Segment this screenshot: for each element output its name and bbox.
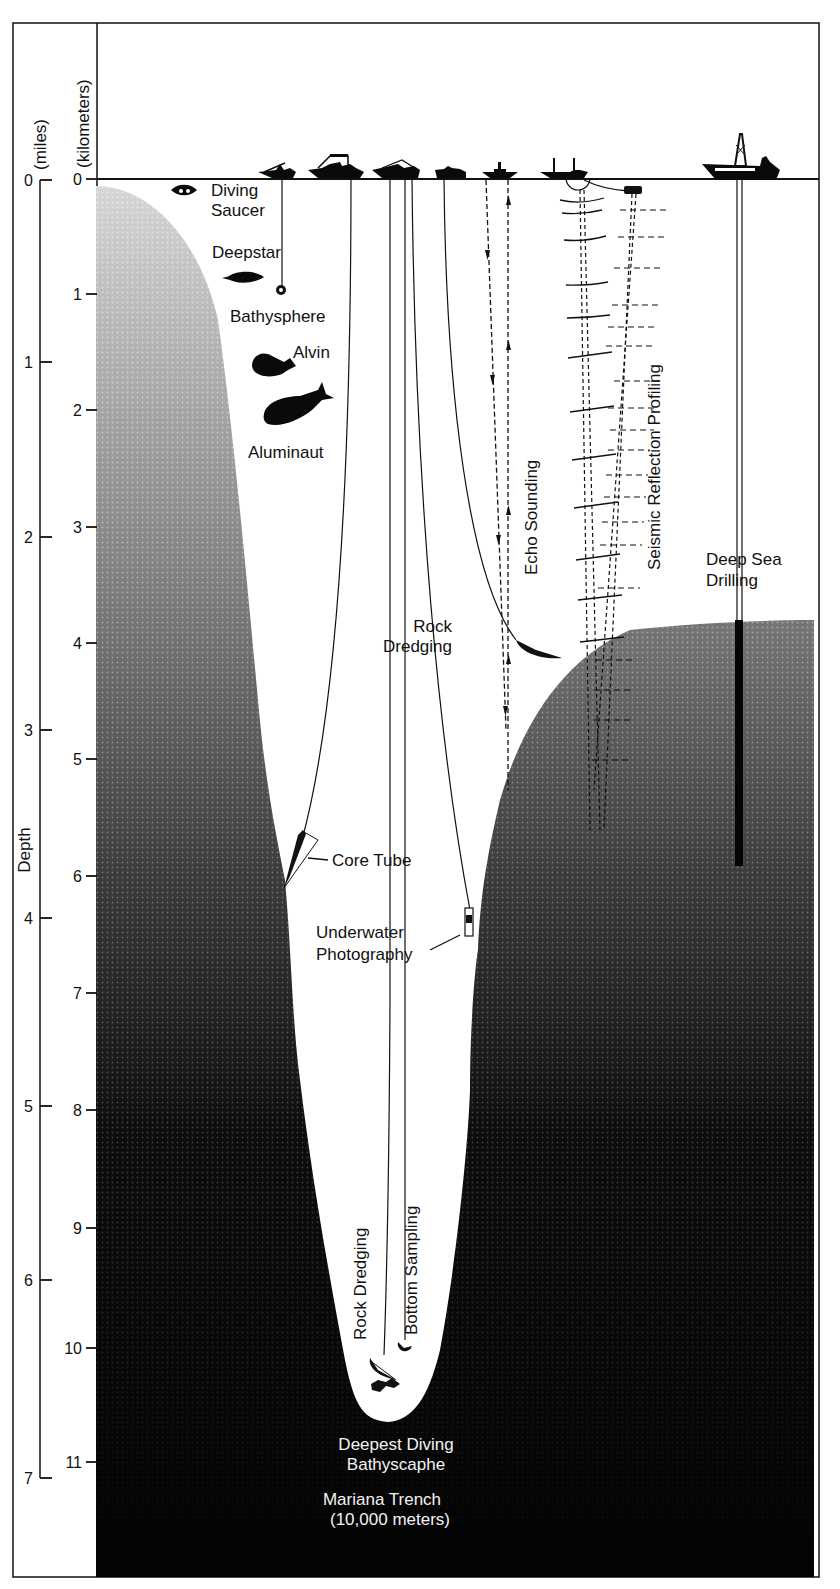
- ocean-exploration-diagram: 0 1 2 3 4 5 6 7 (miles) Depth 0 1 2 3 4: [0, 0, 840, 1589]
- bathysphere-label: Bathysphere: [230, 307, 325, 326]
- aluminaut-icon: [264, 382, 334, 425]
- alvin-label: Alvin: [293, 343, 330, 362]
- aluminaut-label: Aluminaut: [248, 443, 324, 462]
- arrow-up-icon: [506, 340, 511, 350]
- arrow-up-icon: [506, 505, 511, 515]
- miles-tick-6: 6: [24, 1272, 33, 1289]
- arrow-down-icon: [490, 375, 495, 385]
- km-tick-6: 6: [73, 868, 82, 885]
- arrow-down-icon: [503, 706, 508, 716]
- trench-label: Mariana Trench: [323, 1490, 441, 1509]
- miles-axis-title: (miles): [31, 119, 50, 170]
- arrow-up-icon: [506, 195, 511, 205]
- underwater-photography-label-2: Photography: [316, 945, 413, 964]
- kilometers-axis: 0 1 2 3 4 5 6 7 8 9 10 11 (kilometers): [64, 79, 97, 1471]
- arrow-up-icon: [506, 654, 511, 664]
- core-tube-icon: [284, 830, 306, 888]
- ship-icon: [258, 163, 296, 178]
- ship-icon: [372, 160, 420, 178]
- km-axis-title: (kilometers): [74, 79, 93, 168]
- hydrophone-icon: [624, 186, 642, 194]
- rock-dredging-upper-label: Rock: [413, 617, 452, 636]
- km-tick-5: 5: [73, 751, 82, 768]
- miles-tick-7: 7: [24, 1470, 33, 1487]
- surface-ships: [258, 134, 780, 180]
- km-tick-2: 2: [73, 402, 82, 419]
- seafloor-trench: [96, 180, 816, 1580]
- km-tick-1: 1: [73, 286, 82, 303]
- depth-axis-title: Depth: [15, 827, 34, 872]
- km-tick-3: 3: [73, 519, 82, 536]
- diving-saucer-icon: [171, 185, 197, 196]
- ship-icon: [482, 162, 518, 178]
- miles-axis: 0 1 2 3 4 5 6 7 (miles) Depth: [15, 119, 52, 1487]
- arrow-down-icon: [496, 535, 501, 545]
- seismic-profiling-label: Seismic Reflection Profiling: [645, 364, 664, 570]
- km-tick-8: 8: [73, 1102, 82, 1119]
- km-tick-10: 10: [64, 1340, 82, 1357]
- rock-dredging-lower-label: Rock Dredging: [351, 1228, 370, 1340]
- drill-hole: [735, 620, 743, 866]
- km-tick-0: 0: [73, 171, 82, 188]
- diving-saucer-label: Diving: [211, 181, 258, 200]
- echo-sounding-beams: [486, 180, 508, 790]
- bathyscaphe-label-2: Bathyscaphe: [347, 1455, 445, 1474]
- core-tube-label: Core Tube: [332, 851, 411, 870]
- deep-sea-drilling-label: Deep Sea: [706, 550, 782, 569]
- ship-icon: [308, 154, 364, 178]
- km-tick-7: 7: [73, 985, 82, 1002]
- miles-tick-0: 0: [24, 172, 33, 189]
- miles-tick-3: 3: [24, 722, 33, 739]
- km-tick-4: 4: [73, 635, 82, 652]
- ship-icon: [540, 158, 588, 178]
- drilling-ship-icon: [702, 134, 780, 180]
- miles-tick-1: 1: [24, 354, 33, 371]
- diving-saucer-label-2: Saucer: [211, 201, 265, 220]
- miles-tick-5: 5: [24, 1098, 33, 1115]
- bottom-sampler-icon: [398, 1342, 412, 1351]
- rock-dredge-upper-icon: [516, 640, 562, 658]
- alvin-icon: [252, 354, 296, 377]
- km-tick-9: 9: [73, 1220, 82, 1237]
- echo-sounding-label: Echo Sounding: [522, 460, 541, 575]
- deepstar-label: Deepstar: [212, 243, 281, 262]
- km-tick-11: 11: [65, 1454, 82, 1471]
- deep-sea-drilling-label-2: Drilling: [706, 571, 758, 590]
- underwater-photography-label: Underwater: [316, 923, 404, 942]
- bottom-sampling-label: Bottom Sampling: [402, 1206, 421, 1335]
- trench-depth-label: (10,000 meters): [330, 1510, 450, 1529]
- bathyscaphe-label: Deepest Diving: [338, 1435, 453, 1454]
- ship-icon: [435, 166, 466, 178]
- deepstar-icon: [222, 272, 264, 283]
- rock-dredging-upper-label-2: Dredging: [383, 637, 452, 656]
- miles-tick-2: 2: [24, 529, 33, 546]
- miles-tick-4: 4: [24, 910, 33, 927]
